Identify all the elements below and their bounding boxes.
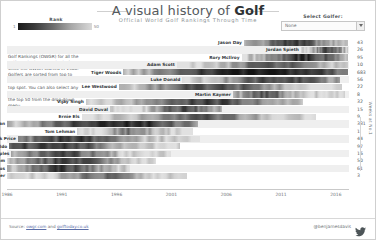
- golfer-name: Luke Donald: [150, 76, 182, 83]
- ranking-bar[interactable]: [123, 69, 348, 75]
- source-link-golftoday[interactable]: golftoday.co.uk: [57, 224, 89, 229]
- table-row[interactable]: Tiger Woods683: [7, 69, 349, 76]
- table-row[interactable]: Lee Westwood22: [7, 83, 349, 90]
- page-title-emphasis: Golf: [234, 3, 264, 18]
- ranking-bar[interactable]: [177, 62, 348, 68]
- source-link-owgr[interactable]: owgr.com: [26, 224, 46, 229]
- table-row[interactable]: Adam Scott10: [7, 61, 349, 68]
- table-row[interactable]: Martin Kaymer8: [7, 91, 349, 98]
- golfer-name: Seve Ballesteros: [0, 165, 7, 172]
- weeks-at-number-one: 683: [357, 69, 366, 76]
- golfer-name: Martin Kaymer: [195, 91, 233, 98]
- table-row[interactable]: Greg Norman331: [7, 120, 349, 127]
- ranking-bar[interactable]: [11, 151, 171, 157]
- ranking-bar[interactable]: [244, 40, 348, 46]
- table-row[interactable]: Nick Faldo97: [7, 143, 349, 150]
- ranking-bar[interactable]: [9, 143, 180, 149]
- chevron-down-icon[interactable]: [356, 22, 364, 30]
- rank-legend-min: 1: [13, 24, 16, 29]
- ranking-bar[interactable]: [82, 114, 317, 120]
- table-row[interactable]: Luke Donald56: [7, 76, 349, 83]
- golfer-name: Vijay Singh: [57, 98, 86, 105]
- rank-legend-gradient: [18, 23, 92, 30]
- weeks-at-number-one: 26: [357, 46, 363, 53]
- golfer-name: Jason Day: [218, 39, 244, 46]
- source-credit: Source: owgr.com and golftoday.co.uk: [9, 224, 89, 229]
- value-axis-title: Weeks at No.1: [368, 101, 373, 135]
- weeks-at-number-one: 56: [357, 76, 363, 83]
- golfer-name: Rory McIlroy: [209, 54, 241, 61]
- rank-legend: Rank 1 50: [13, 17, 99, 30]
- chart-area: Jason Day43Jordan Spieth26Rory McIlroy95…: [1, 39, 375, 207]
- weeks-at-number-one: 32: [357, 98, 363, 105]
- golfer-name: Ian Woosnam: [0, 157, 7, 164]
- source-prefix: Source:: [9, 224, 26, 229]
- rank-legend-title: Rank: [13, 17, 99, 22]
- axis-tick-label: 2016: [330, 192, 341, 197]
- time-axis: 1986199119962001200620112016: [7, 189, 349, 207]
- rank-legend-max: 50: [94, 24, 99, 29]
- select-golfer-value: None: [282, 23, 296, 28]
- table-row[interactable]: Ian Woosnam50: [7, 157, 349, 164]
- golfer-name: David Duval: [79, 106, 110, 113]
- time-axis-line: [7, 189, 349, 190]
- select-golfer-dropdown[interactable]: None: [281, 21, 365, 31]
- golfer-name: Jordan Spieth: [266, 46, 301, 53]
- weeks-at-number-one: 95: [357, 54, 363, 61]
- weeks-at-number-one: 331: [357, 120, 366, 127]
- weeks-at-number-one: 15: [357, 106, 363, 113]
- value-axis-rule: [360, 117, 361, 171]
- table-row[interactable]: Rory McIlroy95: [7, 54, 349, 61]
- table-row[interactable]: Seve Ballesteros61: [7, 165, 349, 172]
- golfer-name: Adam Scott: [147, 61, 177, 68]
- table-row[interactable]: David Duval15: [7, 106, 349, 113]
- table-row[interactable]: Jordan Spieth26: [7, 46, 349, 53]
- ranking-bar[interactable]: [301, 47, 348, 53]
- golfer-name: Lee Westwood: [82, 83, 119, 90]
- axis-tick-label: 1991: [56, 192, 67, 197]
- golfer-name: Nick Faldo: [0, 143, 9, 150]
- ranking-bar[interactable]: [77, 128, 193, 134]
- ranking-bar[interactable]: [110, 106, 222, 112]
- ranking-bar[interactable]: [233, 91, 345, 97]
- weeks-at-number-one: 8: [357, 91, 360, 98]
- weeks-at-number-one: 43: [357, 39, 363, 46]
- table-row[interactable]: Vijay Singh32: [7, 98, 349, 105]
- ranking-bar[interactable]: [182, 77, 340, 83]
- source-joiner: and: [46, 224, 57, 229]
- weeks-at-number-one: 10: [357, 61, 363, 68]
- table-row[interactable]: Tom Lehman1: [7, 128, 349, 135]
- author-handle: @benjamesdavis: [314, 224, 351, 229]
- ranking-bar[interactable]: [7, 121, 198, 127]
- golfer-name: Tom Lehman: [45, 128, 77, 135]
- table-row[interactable]: Bernhard Langer3: [7, 172, 349, 179]
- ranking-bar[interactable]: [7, 158, 156, 164]
- ranking-bar[interactable]: [7, 173, 187, 179]
- twitter-bird-icon[interactable]: [355, 222, 366, 240]
- golfer-name: Ernie Els: [59, 113, 82, 120]
- ranking-bar[interactable]: [86, 99, 303, 105]
- axis-tick-label: 2011: [275, 192, 286, 197]
- table-row[interactable]: Nick Price44: [7, 135, 349, 142]
- select-golfer-control[interactable]: Select Golfer: None: [281, 14, 365, 31]
- table-row[interactable]: Jason Day43: [7, 39, 349, 46]
- golfer-name: Tiger Woods: [91, 69, 123, 76]
- golfer-name: Fred Couples: [0, 150, 11, 157]
- page-title-prefix: A visual history of: [112, 3, 235, 18]
- weeks-at-number-one: 22: [357, 83, 363, 90]
- chart-plot: Jason Day43Jordan Spieth26Rory McIlroy95…: [7, 39, 349, 189]
- axis-tick-label: 2006: [221, 192, 232, 197]
- footer: Source: owgr.com and golftoday.co.uk @be…: [1, 218, 375, 239]
- rank-legend-row: 1 50: [13, 23, 99, 30]
- ranking-bar[interactable]: [18, 136, 200, 142]
- ranking-bar[interactable]: [119, 84, 343, 90]
- golfer-name: Bernhard Langer: [0, 172, 7, 179]
- table-row[interactable]: Fred Couples16: [7, 150, 349, 157]
- golf-rankings-visualization: A visual history of Golf Official World …: [0, 0, 376, 240]
- ranking-bar[interactable]: [242, 54, 348, 60]
- table-row[interactable]: Ernie Els9: [7, 113, 349, 120]
- axis-tick-label: 1986: [1, 192, 12, 197]
- select-golfer-label: Select Golfer:: [281, 14, 365, 19]
- ranking-bar[interactable]: [7, 165, 130, 171]
- golfer-name: Nick Price: [0, 135, 18, 142]
